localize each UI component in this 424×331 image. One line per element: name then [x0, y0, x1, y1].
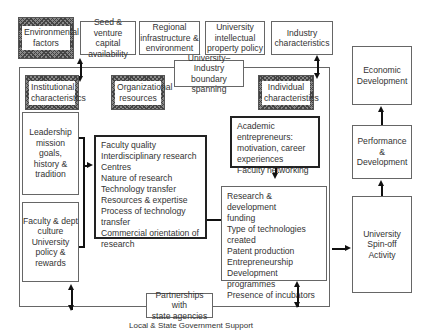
- academic-entrepreneurs-box: Academic entrepreneurs: motivation, care…: [230, 116, 320, 168]
- regional-infrastructure-box: Regionalinfrastructure &environment: [139, 21, 200, 55]
- org-resources-list: Faculty quality Interdisciplinary resear…: [94, 135, 207, 239]
- arrow-up-icon: [314, 55, 320, 61]
- arrow-down-icon: [68, 305, 74, 311]
- performance-development-box: Performance&Development: [352, 125, 412, 179]
- spinoff-activity-box: UniversitySpin-offActivity: [352, 196, 412, 293]
- connector: [83, 137, 85, 247]
- partnerships-box: Partnerships withstate agencies: [146, 293, 213, 318]
- arrow-up-icon: [68, 284, 74, 290]
- arrow-down-icon: [314, 73, 320, 79]
- faculty-culture-box: Faculty & deptcultureUniversitypolicy &r…: [22, 202, 79, 282]
- economic-development-box: EconomicDevelopment: [352, 46, 412, 105]
- connector: [381, 186, 383, 196]
- arrow-up-icon: [294, 281, 300, 287]
- environmental-factors-box: Environmentalfactors: [18, 17, 74, 59]
- connector: [79, 246, 85, 248]
- individual-characteristics-box: Individualcharacteristics: [258, 75, 314, 110]
- rd-list: Research & development funding Type of t…: [221, 186, 327, 281]
- ip-policy-box: Universityintellectualproperty policy: [205, 21, 265, 55]
- organizational-resources-box: Organizationalresources: [111, 75, 165, 110]
- leadership-box: Leadershipmissiongoals,history &traditio…: [22, 112, 79, 195]
- arrow-down-icon: [272, 173, 278, 179]
- connector: [332, 248, 346, 250]
- connector: [207, 219, 221, 221]
- connector: [381, 112, 383, 125]
- seed-venture-box: Seed & venturecapitalavailability: [80, 21, 136, 55]
- arrow-up-icon: [378, 180, 384, 186]
- arrow-up-icon: [77, 58, 83, 64]
- arrow-up-icon: [378, 106, 384, 112]
- industry-characteristics-box: Industrycharacteristics: [271, 21, 333, 55]
- arrow-right-icon: [87, 162, 93, 168]
- arrow-down-icon: [294, 302, 300, 308]
- institutional-characteristics-box: Institutionalcharacteristics: [25, 75, 79, 110]
- arrow-right-icon: [345, 245, 351, 251]
- boundary-spanning-box: University–Industryboundary spanning: [174, 60, 244, 87]
- caption-government-support: Local & State Government Support: [129, 321, 253, 330]
